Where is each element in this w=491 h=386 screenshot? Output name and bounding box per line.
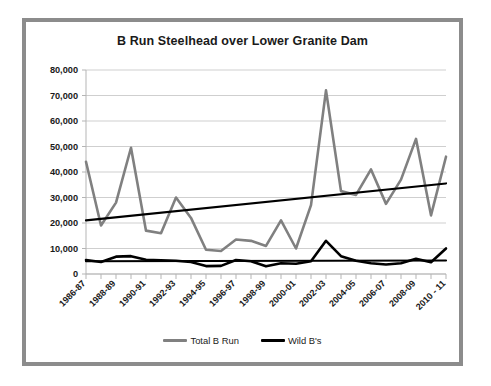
x-axis-tick-labels: 1986-871988-891990-911992-931994-951996-… [57,278,447,312]
x-tick-label: 1988-89 [87,278,117,308]
y-tick-label: 50,000 [50,142,78,152]
x-tick-label: 1990-91 [117,278,147,308]
y-tick-label: 70,000 [50,91,78,101]
y-tick-label: 0 [73,269,78,279]
x-tick-label: 2008-09 [387,278,417,308]
chart-surface: B Run Steelhead over Lower Granite Dam 0… [26,22,459,362]
series-line-total-b-run [86,90,446,251]
legend-entry[interactable]: Total B Run [163,335,238,346]
x-tick-label: 2006-07 [357,278,387,308]
trendline [86,260,446,261]
x-tick-label: 2004-05 [327,278,357,308]
y-tick-label: 40,000 [50,167,78,177]
y-tick-label: 30,000 [50,193,78,203]
legend-swatch [261,339,285,342]
x-tick-label: 1986-87 [57,278,87,308]
legend-swatch [163,339,187,342]
y-tick-label: 20,000 [50,218,78,228]
legend-entry[interactable]: Wild B's [261,335,322,346]
legend-label: Wild B's [288,335,322,346]
y-axis-tick-labels: 010,00020,00030,00040,00050,00060,00070,… [50,65,78,279]
x-tick-label: 1994-95 [177,278,207,308]
legend-label: Total B Run [190,335,238,346]
y-tick-label: 60,000 [50,116,78,126]
x-tick-label: 1998-99 [237,278,267,308]
data-series [86,90,446,266]
y-tick-label: 80,000 [50,65,78,75]
x-tick-label: 2002-03 [297,278,327,308]
x-tick-label: 1996-97 [207,278,237,308]
x-tick-label: 1992-93 [147,278,177,308]
chart-frame: B Run Steelhead over Lower Granite Dam 0… [22,18,463,366]
line-chart-plot: 010,00020,00030,00040,00050,00060,00070,… [26,22,459,362]
x-tick-label: 2000-01 [267,278,297,308]
x-tick-label: 2010 - 11 [414,278,448,312]
chart-legend: Total B RunWild B's [26,335,459,346]
y-tick-label: 10,000 [50,244,78,254]
axis-lines [86,70,446,279]
